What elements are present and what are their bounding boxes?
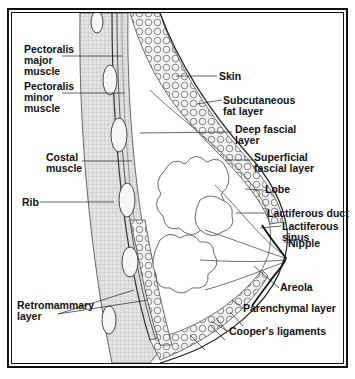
label-retromammary-layer: Retromammary layer	[17, 300, 94, 322]
label-nipple: Nipple	[288, 238, 320, 249]
label-deep-fascial-layer: Deep fascial layer	[235, 124, 296, 146]
label-rib: Rib	[22, 197, 39, 208]
label-subcutaneous-fat-layer: Subcutaneous fat layer	[223, 95, 295, 117]
label-areola: Areola	[280, 282, 313, 293]
label-superficial-fascial-layer: Superficial fascial layer	[254, 152, 314, 174]
lobes	[153, 156, 233, 293]
label-lobe: Lobe	[265, 184, 290, 195]
label-pectoralis-major: Pectoralis major muscle	[24, 44, 74, 77]
label-costal-muscle: Costal muscle	[46, 152, 82, 174]
label-coopers-ligaments: Cooper's ligaments	[229, 326, 326, 337]
label-skin: Skin	[219, 71, 241, 82]
label-pectoralis-minor: Pectoralis minor muscle	[24, 81, 74, 114]
nipple-areola-outline	[252, 225, 286, 306]
label-lactiferous-duct: Lactiferous duct	[267, 208, 349, 219]
label-parenchymal-layer: Parenchymal layer	[243, 303, 336, 314]
